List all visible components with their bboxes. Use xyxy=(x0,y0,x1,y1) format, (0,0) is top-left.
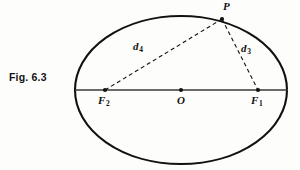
distance-label-d3: d3 xyxy=(241,43,251,55)
ellipse-diagram xyxy=(0,0,300,170)
point-label-P-text: P xyxy=(223,0,230,12)
figure-container: Fig. 6.3 P O F1 F2 d4 d3 xyxy=(0,0,300,170)
distance-label-d4-subscript: 4 xyxy=(139,45,143,54)
distance-label-d3-base: d xyxy=(241,42,247,54)
point-label-F2: F2 xyxy=(98,95,110,107)
point-label-P: P xyxy=(223,1,230,12)
point-label-O: O xyxy=(177,95,185,106)
distance-label-d4: d4 xyxy=(133,41,143,53)
point-label-F2-subscript: 2 xyxy=(105,99,109,108)
point-label-F1: F1 xyxy=(251,95,263,107)
point-O-dot xyxy=(179,88,183,92)
distance-label-d4-base: d xyxy=(133,40,139,52)
point-P-dot xyxy=(220,17,224,21)
focal-radius-d4-line xyxy=(105,19,222,90)
distance-label-d3-subscript: 3 xyxy=(247,47,251,56)
focal-radius-d3-line xyxy=(222,19,258,90)
point-label-F1-subscript: 1 xyxy=(258,99,262,108)
point-label-O-text: O xyxy=(177,94,185,106)
point-F2-dot xyxy=(103,88,107,92)
point-F1-dot xyxy=(256,88,260,92)
